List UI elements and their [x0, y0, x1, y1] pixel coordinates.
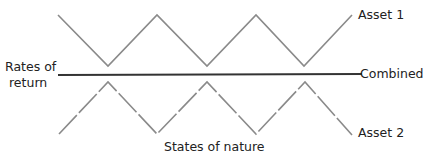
combined-line	[58, 74, 362, 75]
x-axis-label: States of nature	[164, 139, 265, 154]
y-axis-label-line2: return	[9, 75, 47, 90]
asset1-label: Asset 1	[358, 7, 404, 22]
y-axis-label-line1: Rates of	[5, 59, 56, 74]
asset2-line	[59, 82, 352, 135]
asset1-line	[58, 15, 352, 66]
asset2-label: Asset 2	[358, 125, 404, 140]
combined-label: Combined	[360, 66, 424, 81]
